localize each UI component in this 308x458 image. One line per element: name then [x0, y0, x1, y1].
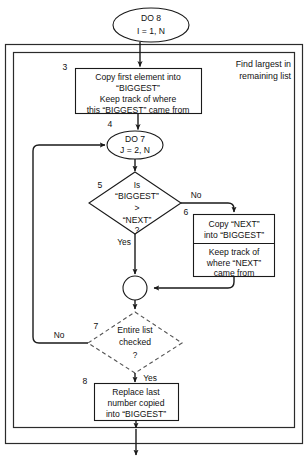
node-step3-line-3: Keep track of where [100, 94, 177, 104]
node-decision5-line-4: “NEXT” [123, 215, 152, 225]
node-do8[interactable]: DO 8 I = 1, N [113, 8, 189, 42]
annotation-line-1: Find largest in [236, 59, 291, 69]
node-step3-line-4: this “BIGGEST” came from [87, 105, 190, 115]
node-step8[interactable]: 8 Replace last number copied into “BIGGE… [83, 376, 179, 420]
node-step6-bottom-line-1: Keep track of [209, 247, 260, 257]
node-decision5-line-5: ? [135, 226, 140, 235]
edge-label-decision7-no: No [54, 330, 65, 340]
node-merge-connector[interactable] [123, 276, 147, 300]
node-step3-line-2: “BIGGEST” [116, 83, 160, 93]
flowchart-svg: Find largest in remaining list DO 8 I = … [0, 0, 308, 458]
node-do7-line-1: DO 7 [125, 134, 145, 144]
node-do7[interactable]: 4 DO 7 J = 2, N [107, 119, 163, 159]
node-decision7-number: 7 [94, 321, 99, 331]
node-step6-bottom-line-2: where “NEXT” [206, 258, 262, 268]
node-step3-number: 3 [63, 62, 68, 72]
node-decision7-line-1: Entire list [117, 325, 153, 335]
node-step3[interactable]: 3 Copy first element into “BIGGEST” Keep… [63, 62, 202, 115]
node-step8-line-3: into “BIGGEST” [106, 409, 166, 419]
node-do8-line-1: DO 8 [141, 13, 161, 23]
node-decision5-line-2: “BIGGEST” [115, 191, 159, 201]
node-decision5-line-3: > [134, 203, 139, 213]
node-step6-top-line-2: into “BIGGEST” [204, 230, 264, 240]
edge-decision5-no [181, 203, 234, 212]
edge-label-decision7-yes: Yes [143, 373, 157, 383]
node-step6-number: 6 [184, 207, 189, 217]
node-step8-line-2: number copied [108, 398, 165, 408]
node-do7-number: 4 [108, 119, 113, 129]
node-decision5-number: 5 [98, 180, 103, 190]
node-step8-number: 8 [83, 376, 88, 386]
node-decision7-line-2: checked [119, 337, 151, 347]
node-step6-top-line-1: Copy “NEXT” [208, 219, 259, 229]
flowchart-canvas: Find largest in remaining list DO 8 I = … [0, 0, 308, 458]
edge-decision7-no-loop [33, 145, 105, 343]
annotation-line-2: remaining list [239, 71, 291, 81]
edge-label-decision5-yes: Yes [117, 237, 131, 247]
node-step8-line-1: Replace last [112, 387, 160, 397]
node-do8-line-2: I = 1, N [137, 26, 165, 36]
node-decision5-line-1: Is [134, 181, 140, 190]
node-step6[interactable]: 6 Copy “NEXT” into “BIGGEST” Keep track … [184, 207, 275, 278]
node-step3-line-1: Copy first element into [95, 72, 181, 82]
edge-label-decision5-no: No [191, 190, 202, 200]
annotation-find-largest: Find largest in remaining list [236, 59, 292, 81]
node-do7-line-2: J = 2, N [120, 145, 150, 155]
node-decision5[interactable]: 5 Is “BIGGEST” > “NEXT” ? [89, 172, 181, 235]
node-decision7[interactable]: 7 Entire list checked ? [88, 312, 182, 373]
node-decision7-line-3: ? [133, 351, 138, 360]
